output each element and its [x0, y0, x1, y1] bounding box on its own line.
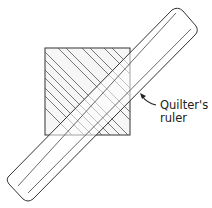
ruler-label: Quilter's ruler	[160, 99, 208, 125]
pointer-arrow	[140, 93, 156, 105]
ruler-label-line2: ruler	[160, 112, 208, 125]
